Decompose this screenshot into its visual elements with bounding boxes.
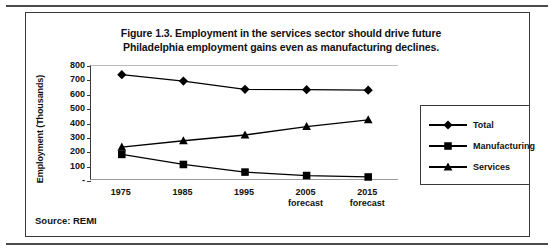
x-axis-labels: 1975198519952005forecast2015forecast [90, 183, 398, 209]
y-tick-label: 200 [70, 146, 85, 156]
square-marker-icon [429, 139, 467, 153]
x-tick-label: 2005forecast [288, 187, 323, 209]
legend-label: Services [467, 162, 510, 172]
y-tick-label: 400 [70, 118, 85, 128]
chart-legend: TotalManufacturingServices [420, 105, 530, 185]
y-tick-mark [87, 181, 91, 182]
source-note: Source: REMI [35, 215, 97, 226]
figure-title: Figure 1.3. Employment in the services s… [66, 26, 496, 54]
y-tick-label: 600 [70, 89, 85, 99]
plot-frame [90, 65, 398, 180]
top-divider [6, 5, 548, 7]
x-tick-label: 1985 [172, 187, 192, 198]
x-tick-label: 1975 [111, 187, 131, 198]
y-axis-label: Employment (Thousands) [32, 65, 48, 193]
y-axis-label-text: Employment (Thousands) [35, 75, 45, 183]
figure-page: Figure 1.3. Employment in the services s… [0, 0, 554, 250]
y-tick-label: 300 [70, 132, 85, 142]
y-axis-ticks: 800700600500400300200100- [62, 65, 88, 180]
y-tick-label: 100 [70, 161, 85, 171]
legend-label: Manufacturing [467, 141, 535, 151]
legend-item[interactable]: Total [429, 115, 525, 135]
triangle-marker-icon [429, 160, 467, 174]
plot-wrapper: 800700600500400300200100- 19751985199520… [62, 65, 400, 193]
legend-item[interactable]: Services [429, 157, 525, 177]
chart-area: Employment (Thousands) 80070060050040030… [34, 65, 404, 210]
y-tick-label: - [82, 175, 85, 185]
legend-item[interactable]: Manufacturing [429, 136, 525, 156]
x-tick-label: 2015forecast [350, 187, 385, 209]
y-tick-label: 800 [70, 60, 85, 70]
bottom-divider [6, 243, 548, 245]
legend-label: Total [467, 120, 494, 130]
figure-box: Figure 1.3. Employment in the services s… [25, 12, 530, 237]
y-tick-label: 700 [70, 74, 85, 84]
diamond-marker-icon [429, 118, 467, 132]
y-tick-label: 500 [70, 103, 85, 113]
x-tick-label: 1995 [234, 187, 254, 198]
figure-title-line-1: Figure 1.3. Employment in the services s… [66, 26, 496, 40]
figure-title-line-2: Philadelphia employment gains even as ma… [66, 40, 496, 54]
